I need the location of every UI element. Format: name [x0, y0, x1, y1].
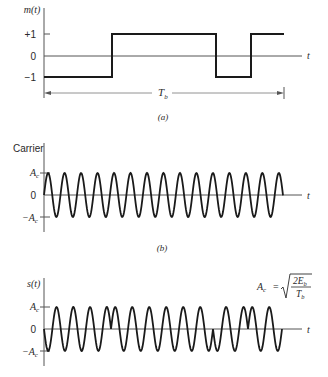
panel-c-y-label: s(t) — [27, 278, 41, 290]
tick-label-minus-one: −1 — [25, 72, 37, 83]
arrow-right-icon — [277, 91, 284, 95]
tick-label-zero: 0 — [30, 324, 36, 335]
formula-denominator: Tb — [296, 289, 305, 300]
tick-label-ac: Ac — [29, 167, 40, 180]
tick-label-minus-ac: −Ac — [22, 346, 39, 359]
caption-b: (b) — [157, 243, 168, 253]
period-label: Tb — [158, 86, 168, 101]
caption-a: (a) — [158, 112, 169, 122]
formula-numerator: 2Eb — [293, 276, 308, 287]
arrow-left-icon — [44, 91, 51, 95]
bpsk-diagram: m(t) +1 0 −1 t Tb (a) Carrier Ac 0 −Ac t… — [0, 0, 328, 377]
panel-b-carrier: Carrier Ac 0 −Ac t (b) — [13, 143, 310, 253]
formula-lhs: Ac — [256, 281, 267, 294]
tick-label-ac: Ac — [29, 301, 40, 314]
tick-label-zero: 0 — [30, 51, 36, 62]
tick-label-plus-one: +1 — [25, 29, 37, 40]
tick-label-zero: 0 — [30, 190, 36, 201]
panel-a-message: m(t) +1 0 −1 t Tb (a) — [24, 4, 310, 122]
panel-b-y-label: Carrier — [13, 143, 44, 154]
tick-label-minus-ac: −Ac — [22, 212, 39, 225]
formula-equals: = — [273, 281, 279, 292]
panel-c-x-label: t — [307, 324, 310, 335]
panel-b-x-label: t — [307, 190, 310, 201]
panel-a-y-label: m(t) — [24, 4, 41, 16]
amplitude-formula: Ac = 2Eb Tb — [256, 274, 312, 300]
panel-a-x-label: t — [307, 50, 310, 61]
panel-c-bpsk-signal: s(t) Ac 0 −Ac t Ac = 2Eb Tb — [22, 274, 312, 366]
